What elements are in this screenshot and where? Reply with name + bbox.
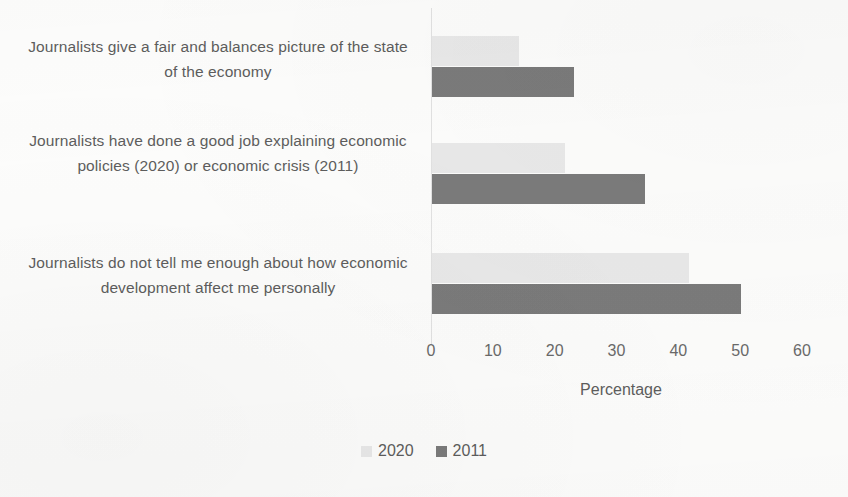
xtick-1: 10 [473,342,513,360]
bar-2020-category-1 [432,36,519,66]
category-label-3: Journalists do not tell me enough about … [22,250,414,300]
xtick-3: 30 [597,342,637,360]
legend-entry-2020: 2020 [361,442,414,460]
xtick-5: 50 [720,342,760,360]
legend-label-2011: 2011 [453,442,487,460]
bar-2020-category-3 [432,253,689,283]
plot-area [431,8,831,344]
category-label-1: Journalists give a fair and balances pic… [22,34,414,84]
legend-label-2020: 2020 [378,442,414,460]
bar-2011-category-2 [432,174,645,204]
bar-2020-category-2 [432,143,565,173]
bar-chart: Journalists give a fair and balances pic… [0,0,848,497]
xtick-0: 0 [411,342,451,360]
bar-2011-category-1 [432,67,574,97]
chart-legend: 2020 2011 [0,442,848,460]
legend-swatch-2011-icon [436,446,447,457]
legend-entry-2011: 2011 [436,442,487,460]
xtick-6: 60 [782,342,822,360]
x-axis-title: Percentage [431,381,811,399]
category-label-2: Journalists have done a good job explain… [22,128,414,178]
xtick-4: 40 [658,342,698,360]
xtick-2: 20 [535,342,575,360]
bar-2011-category-3 [432,284,741,314]
legend-swatch-2020-icon [361,446,372,457]
